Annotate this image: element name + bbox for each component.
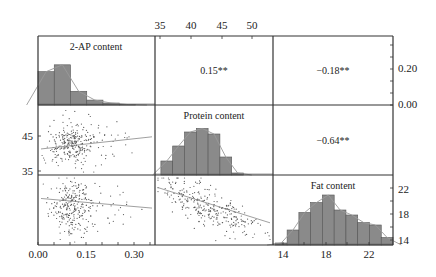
data-point xyxy=(62,183,63,184)
data-point xyxy=(197,213,198,214)
diag-label-protein: Protein content xyxy=(184,110,245,121)
data-point xyxy=(186,190,187,191)
data-point xyxy=(66,202,67,203)
data-point xyxy=(69,142,70,143)
data-point xyxy=(77,228,78,229)
data-point xyxy=(77,204,78,205)
data-point xyxy=(75,132,76,133)
data-point xyxy=(59,132,60,133)
data-point xyxy=(45,162,46,163)
data-point xyxy=(257,223,258,224)
data-point xyxy=(73,229,74,230)
data-point xyxy=(70,122,71,123)
data-point xyxy=(71,137,72,138)
data-point xyxy=(95,165,96,166)
data-point xyxy=(69,234,70,235)
data-point xyxy=(81,199,82,200)
data-point xyxy=(72,154,73,155)
data-point xyxy=(217,201,218,202)
data-point xyxy=(218,213,219,214)
data-point xyxy=(56,203,57,204)
right-tick-0.00: 0.00 xyxy=(398,98,418,110)
data-point xyxy=(47,146,48,147)
data-point xyxy=(109,223,110,224)
data-point xyxy=(212,208,213,209)
left-tick-45: 45 xyxy=(22,130,34,142)
histogram-bar xyxy=(334,210,346,245)
data-point xyxy=(176,177,177,178)
data-point xyxy=(91,138,92,139)
data-point xyxy=(69,229,70,230)
data-point xyxy=(197,204,198,205)
data-point xyxy=(78,199,79,200)
data-point xyxy=(113,203,114,204)
data-point xyxy=(68,138,69,139)
data-point xyxy=(104,135,105,136)
data-point xyxy=(68,140,69,141)
data-point xyxy=(69,144,70,145)
diag-label-2ap: 2-AP content xyxy=(70,41,123,52)
data-point xyxy=(79,223,80,224)
data-point xyxy=(242,206,243,207)
data-point xyxy=(68,142,69,143)
data-point xyxy=(78,146,79,147)
data-point xyxy=(75,167,76,168)
data-point xyxy=(73,185,74,186)
data-point xyxy=(80,208,81,209)
data-point xyxy=(67,206,68,207)
data-point xyxy=(199,180,200,181)
data-point xyxy=(215,240,216,241)
data-point xyxy=(232,206,233,207)
data-point xyxy=(102,140,103,141)
data-point xyxy=(93,134,94,135)
data-point xyxy=(75,182,76,183)
data-point xyxy=(90,135,91,136)
data-point xyxy=(212,216,213,217)
data-point xyxy=(85,198,86,199)
data-point xyxy=(241,224,242,225)
data-point xyxy=(230,202,231,203)
data-point xyxy=(204,220,205,221)
data-point xyxy=(163,177,164,178)
top-tick-40: 40 xyxy=(186,19,198,31)
data-point xyxy=(73,214,74,215)
data-point xyxy=(75,193,76,194)
data-point xyxy=(222,222,223,223)
data-point xyxy=(123,224,124,225)
data-point xyxy=(90,139,91,140)
data-point xyxy=(75,157,76,158)
data-point xyxy=(61,222,62,223)
data-point xyxy=(184,177,185,178)
data-point xyxy=(246,234,247,235)
data-point xyxy=(68,151,69,152)
data-point xyxy=(56,137,57,138)
data-point xyxy=(75,209,76,210)
data-point xyxy=(216,218,217,219)
data-point xyxy=(196,209,197,210)
data-point xyxy=(167,191,168,192)
data-point xyxy=(72,135,73,136)
data-point xyxy=(123,214,124,215)
data-point xyxy=(157,191,158,192)
data-point xyxy=(70,233,71,234)
data-point xyxy=(71,133,72,134)
data-point xyxy=(86,231,87,232)
data-point xyxy=(62,122,63,123)
histogram-bar xyxy=(208,134,220,175)
data-point xyxy=(241,219,242,220)
data-point xyxy=(82,207,83,208)
data-point xyxy=(69,150,70,151)
data-point xyxy=(83,164,84,165)
data-point xyxy=(72,126,73,127)
data-point xyxy=(228,221,229,222)
data-point xyxy=(244,225,245,226)
data-point xyxy=(81,147,82,148)
data-point xyxy=(61,197,62,198)
data-point xyxy=(233,207,234,208)
data-point xyxy=(79,136,80,137)
data-point xyxy=(169,179,170,180)
data-point xyxy=(229,213,230,214)
data-point xyxy=(208,214,209,215)
data-point xyxy=(231,224,232,225)
data-point xyxy=(54,202,55,203)
